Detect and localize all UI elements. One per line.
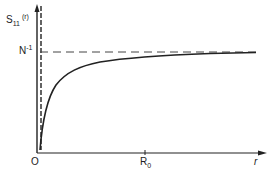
y-label-main: S: [6, 14, 13, 25]
asymptote-label: N-1: [19, 46, 32, 56]
s11-curve: [40, 53, 256, 151]
y-axis-label: S11(r): [6, 15, 29, 25]
x-axis-arrow-icon: [258, 151, 267, 156]
origin-label: O: [31, 157, 39, 167]
y-label-sub: 11: [13, 20, 20, 27]
y-label-arg: (r): [22, 13, 29, 20]
r0-label: R0: [140, 157, 151, 167]
x-axis-label: r: [254, 157, 257, 167]
chart-canvas: [0, 0, 278, 182]
n-sup: -1: [26, 44, 32, 51]
r0-sub: 0: [147, 162, 151, 169]
y-axis-arrow-icon: [35, 4, 40, 12]
